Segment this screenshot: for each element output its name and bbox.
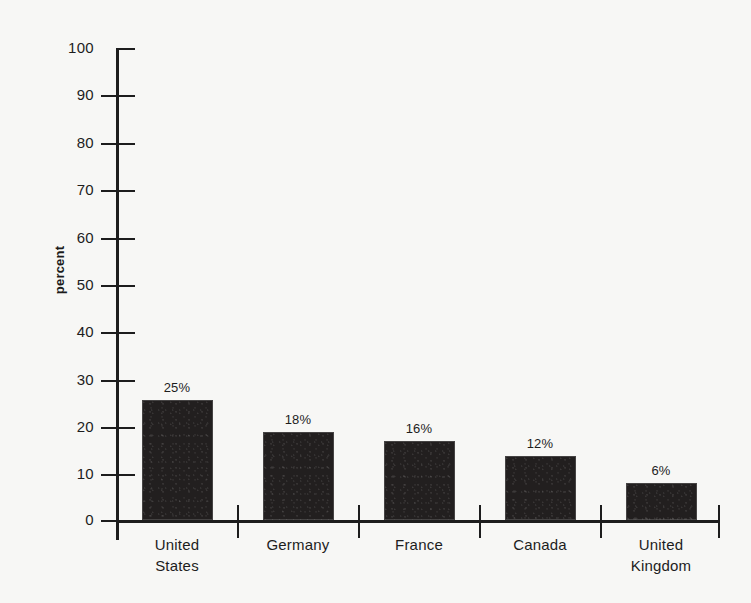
y-tick-10 xyxy=(101,474,135,476)
bar-value-canada: 12% xyxy=(495,436,585,451)
y-axis-label-40: 40 xyxy=(46,323,94,340)
bar-united-kingdom xyxy=(626,483,697,520)
x-axis-label-line: France xyxy=(354,534,484,555)
x-axis-label-line: Kingdom xyxy=(596,555,726,576)
bar-france xyxy=(384,441,455,520)
y-tick-90 xyxy=(101,95,135,97)
x-axis-label-united-states: United States xyxy=(112,534,242,576)
x-axis-label-line: Germany xyxy=(233,534,363,555)
bar-value-france: 16% xyxy=(374,421,464,436)
x-axis-label-germany: Germany xyxy=(233,534,363,555)
y-tick-70 xyxy=(101,190,135,192)
y-axis-label-50: 50 xyxy=(46,276,94,293)
bar-value-united-states: 25% xyxy=(132,380,222,395)
y-axis-label-70: 70 xyxy=(46,181,94,198)
y-axis-line xyxy=(116,48,119,540)
x-axis-label-line: States xyxy=(112,555,242,576)
y-axis-label-30: 30 xyxy=(46,371,94,388)
x-axis-line xyxy=(118,520,720,523)
x-axis-label-line: Canada xyxy=(475,534,605,555)
x-axis-label-france: France xyxy=(354,534,484,555)
x-axis-label-line: United xyxy=(112,534,242,555)
bar-value-germany: 18% xyxy=(253,412,343,427)
y-tick-80 xyxy=(101,143,135,145)
y-axis-label-60: 60 xyxy=(46,229,94,246)
bar-chart: percent 100 90 80 70 60 50 40 30 20 10 0… xyxy=(0,0,751,603)
y-tick-40 xyxy=(101,332,135,334)
bar-value-united-kingdom: 6% xyxy=(616,463,706,478)
bar-germany xyxy=(263,432,334,520)
y-axis-label-80: 80 xyxy=(46,134,94,151)
y-axis-label-100: 100 xyxy=(46,39,94,56)
x-axis-label-united-kingdom: United Kingdom xyxy=(596,534,726,576)
y-tick-50 xyxy=(101,285,135,287)
x-axis-label-line: United xyxy=(596,534,726,555)
y-axis-label-0: 0 xyxy=(46,511,94,528)
bar-united-states xyxy=(142,400,213,520)
y-tick-60 xyxy=(101,238,135,240)
x-axis-label-canada: Canada xyxy=(475,534,605,555)
y-tick-20 xyxy=(101,427,135,429)
y-tick-100 xyxy=(116,48,135,50)
y-axis-label-10: 10 xyxy=(46,465,94,482)
y-tick-30 xyxy=(101,380,135,382)
y-axis-label-20: 20 xyxy=(46,418,94,435)
y-axis-label-90: 90 xyxy=(46,86,94,103)
bar-canada xyxy=(505,456,576,520)
